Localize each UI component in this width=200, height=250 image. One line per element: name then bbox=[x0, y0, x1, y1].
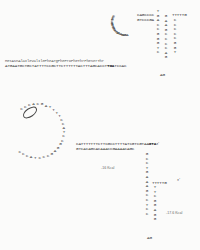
loop-nucleotide: C bbox=[18, 150, 20, 154]
loop-nucleotide: C bbox=[47, 154, 49, 158]
loop-nucleotide: G bbox=[41, 102, 43, 106]
stem-nucleotide: T bbox=[173, 50, 177, 55]
dna-sequence-line: ATGAATGCTGCTATTTTCCGCTTCTTTTTTACTTTAGCAC… bbox=[5, 64, 126, 68]
loop-nucleotide: T bbox=[52, 108, 54, 112]
loop-nucleotide: G bbox=[57, 146, 59, 150]
loop-nucleotide: C bbox=[36, 102, 38, 106]
loop-nucleotide: C bbox=[43, 155, 45, 159]
loop-nucleotide: G bbox=[59, 142, 61, 146]
top-stem-row-2: GTCCCGA bbox=[137, 18, 154, 22]
top-tail-vertical: CCCCCGGT bbox=[173, 18, 177, 55]
loop-nucleotide: T bbox=[49, 105, 51, 109]
stem-nucleotide: C bbox=[156, 50, 160, 55]
bottom-loop-bottom: AG bbox=[147, 236, 152, 240]
stem-nucleotide: C bbox=[145, 212, 149, 217]
top-loop-bottom: AG bbox=[160, 73, 165, 77]
three-prime-label: 3' bbox=[156, 143, 159, 146]
dna-suffix: TCCAC bbox=[114, 63, 126, 68]
dna-prefix: ATGAATGCTGCTATTTTCCGCTTCTTTTTTACTTTAGCAC… bbox=[5, 63, 107, 68]
loop-nucleotide: C bbox=[26, 154, 28, 158]
three-prime-label-2: 3' bbox=[177, 179, 181, 182]
stem-nucleotide: G bbox=[153, 217, 157, 222]
loop-nucleotide: A bbox=[54, 149, 56, 153]
loop-nucleotide: G bbox=[50, 152, 52, 156]
loop-nucleotide: C bbox=[22, 152, 24, 156]
energy-annotation-1: -16 Kcal bbox=[101, 167, 114, 171]
loop-nucleotide: A bbox=[126, 33, 128, 37]
loop-nucleotide: A bbox=[30, 155, 32, 159]
stem-nucleotide: G bbox=[164, 55, 168, 60]
energy-annotation-2: -17.6 Kcal bbox=[166, 212, 182, 216]
loop-nucleotide: C bbox=[38, 156, 40, 160]
loop-nucleotide: T bbox=[34, 156, 36, 160]
loop-nucleotide: A bbox=[45, 103, 47, 107]
bottom-tail: TTTTTG bbox=[152, 181, 167, 185]
loop-nucleotide: C bbox=[20, 107, 22, 111]
bottom-strand: GTCACAGCACAAACCGAAAACAGC bbox=[76, 147, 134, 151]
bottom-stem-right: TTCGGAGG bbox=[153, 185, 157, 222]
top-hairpin-right-column: GAAGCCCCAG bbox=[164, 14, 168, 60]
top-tail: TTTTTG bbox=[172, 13, 187, 17]
bottom-stem-left: GCCTGAAAGCCTCC bbox=[145, 152, 149, 216]
top-hairpin-left-column: TGACCGGGTC bbox=[156, 9, 160, 55]
